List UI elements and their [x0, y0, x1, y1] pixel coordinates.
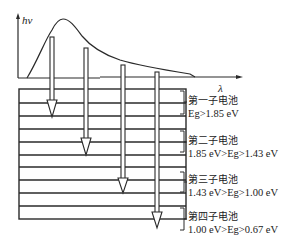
cell-stack	[19, 89, 186, 219]
photon-arrow-1	[47, 37, 57, 117]
layer-lines	[19, 103, 186, 206]
x-axis-label: λ	[218, 82, 223, 94]
photon-arrow-2	[81, 48, 91, 155]
cell-condition: Eg>1.85 eV	[188, 107, 239, 120]
cell-name: 第二子电池	[188, 134, 278, 147]
photon-arrow-4	[152, 72, 162, 228]
cell-condition: 1.00 eV>Eg>0.67 eV	[188, 223, 278, 236]
cell-condition: 1.85 eV>Eg>1.43 eV	[188, 147, 278, 160]
cell-label-1: 第一子电池 Eg>1.85 eV	[188, 94, 239, 120]
y-axis-label: hν	[22, 14, 32, 26]
cell-name: 第一子电池	[188, 94, 239, 107]
cell-label-3: 第三子电池 1.43 eV>Eg>1.00 eV	[188, 173, 278, 199]
cell-name: 第四子电池	[188, 210, 278, 223]
cell-label-2: 第二子电池 1.85 eV>Eg>1.43 eV	[188, 134, 278, 160]
cell-name: 第三子电池	[188, 173, 278, 186]
cell-label-4: 第四子电池 1.00 eV>Eg>0.67 eV	[188, 210, 278, 236]
y-axis	[16, 13, 20, 78]
cell-condition: 1.43 eV>Eg>1.00 eV	[188, 186, 278, 199]
